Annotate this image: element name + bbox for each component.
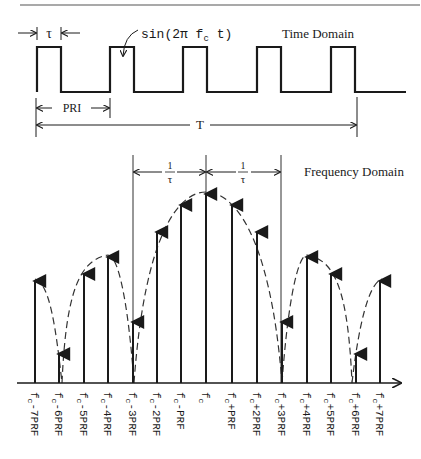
frequency-tick-label: fc-6PRF: [50, 392, 64, 436]
time-domain-title: Time Domain: [282, 26, 355, 41]
frequency-tick-label: fc-3PRF: [124, 392, 138, 436]
time-domain-section: τ sin(2π fc t) Time Domain PRI T: [18, 26, 406, 137]
frequency-tick-label: fc-PRF: [172, 392, 186, 430]
frequency-tick-label: fc-2PRF: [148, 392, 162, 436]
carrier-label: sin(2π fc t): [141, 27, 232, 44]
pri-label: PRI: [63, 101, 82, 115]
frequency-tick-label: fc+4PRF: [298, 392, 312, 436]
frequency-tick-label: fc: [197, 392, 211, 404]
tau-label: τ: [46, 26, 52, 41]
pulse-train-waveform: [37, 47, 406, 92]
sinc-envelope-curve: [35, 192, 382, 383]
interval-label-1-num: 1: [168, 160, 173, 171]
frequency-tick-label: fc-4PRF: [99, 392, 113, 436]
carrier-pointer-arrow: [123, 30, 138, 56]
interval-label-2-num: 1: [241, 160, 246, 171]
frequency-tick-label: fc+6PRF: [347, 392, 361, 436]
frequency-tick-label: fc-5PRF: [75, 392, 89, 436]
interval-label-1-den: τ: [168, 173, 173, 185]
frequency-tick-label: fc+2PRF: [248, 392, 262, 436]
frequency-tick-label: fc-7PRF: [26, 392, 40, 436]
frequency-tick-label: fc+3PRF: [273, 392, 287, 436]
pulse-train-spectrum-diagram: τ sin(2π fc t) Time Domain PRI T 1 τ 1 τ: [0, 0, 421, 459]
frequency-tick-labels: fc-7PRFfc-6PRFfc-5PRFfc-4PRFfc-3PRFfc-2P…: [26, 392, 385, 436]
interval-label-2-den: τ: [241, 173, 246, 185]
frequency-domain-section: 1 τ 1 τ Frequency Domain fc-7PRFfc-6PRFf…: [17, 155, 404, 436]
spectral-lines: [35, 194, 380, 383]
frequency-tick-label: fc+7PRF: [371, 392, 385, 436]
frequency-domain-title: Frequency Domain: [304, 164, 405, 179]
frequency-tick-label: fc+5PRF: [322, 392, 336, 436]
frequency-tick-label: fc+PRF: [223, 392, 237, 430]
period-label: T: [196, 117, 204, 132]
